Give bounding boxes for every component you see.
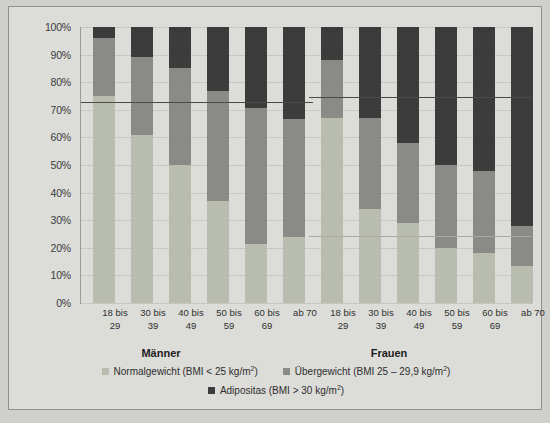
group-label-frauen: Frauen (309, 347, 469, 359)
bar-segment-uber (131, 57, 153, 134)
y-tick-label-30: 30% (51, 215, 71, 225)
y-axis-tick-labels: 0%10%20%30%40%50%60%70%80%90%100% (9, 7, 81, 337)
bar-segment-adip (435, 27, 457, 165)
gridline-0 (81, 303, 531, 304)
category-labels: 18 bis2930 bis3940 bis4950 bis5960 bis69… (81, 307, 531, 347)
bar-männer-5 (283, 27, 305, 303)
chart-legend: Normalgewicht (BMI < 25 kg/m2) Übergewic… (9, 365, 543, 404)
bar-segment-adip (93, 27, 115, 38)
bar-segment-uber (321, 60, 343, 118)
legend-item-adipositas: Adipositas (BMI > 30 kg/m2) (208, 384, 344, 396)
bar-frauen-5 (511, 27, 533, 303)
category-label-frauen-5: ab 70 (510, 307, 550, 320)
reference-line-männer (81, 102, 313, 103)
y-tick-label-100: 100% (45, 22, 71, 32)
bar-segment-uber (397, 143, 419, 223)
y-tick-label-70: 70% (51, 105, 71, 115)
legend-swatch-uebergewicht (283, 368, 290, 375)
y-tick-label-0: 0% (56, 298, 71, 308)
y-tick-label-60: 60% (51, 132, 71, 142)
bar-segment-adip (359, 27, 381, 118)
legend-swatch-adipositas (208, 387, 215, 394)
bar-segment-adip (283, 27, 305, 119)
plot-area (81, 27, 531, 303)
bar-segment-norm (511, 266, 533, 303)
bar-segment-uber (473, 171, 495, 254)
bar-männer-2 (169, 27, 191, 303)
bar-frauen-3 (435, 27, 457, 303)
y-tick-label-40: 40% (51, 188, 71, 198)
group-label-maenner: Männer (81, 347, 241, 359)
bar-segment-adip (511, 27, 533, 226)
y-tick-label-80: 80% (51, 77, 71, 87)
legend-swatch-normalgewicht (102, 368, 109, 375)
bar-segment-uber (207, 91, 229, 201)
bar-männer-0 (93, 27, 115, 303)
bar-männer-3 (207, 27, 229, 303)
bar-segment-norm (359, 209, 381, 303)
reference-line-secondary-frauen (309, 236, 531, 237)
legend-item-uebergewicht: Übergewicht (BMI 25 – 29,9 kg/m2) (283, 365, 451, 377)
legend-row-top: Normalgewicht (BMI < 25 kg/m2) Übergewic… (9, 365, 543, 377)
bar-segment-norm (131, 135, 153, 303)
bar-segment-norm (93, 96, 115, 303)
legend-label-uebergewicht: Übergewicht (BMI 25 – 29,9 kg/m2) (295, 365, 451, 377)
bar-segment-norm (283, 237, 305, 303)
bar-segment-norm (169, 165, 191, 303)
bar-frauen-0 (321, 27, 343, 303)
legend-row-bottom: Adipositas (BMI > 30 kg/m2) (9, 384, 543, 396)
y-tick-label-50: 50% (51, 160, 71, 170)
bar-segment-adip (397, 27, 419, 143)
bar-frauen-1 (359, 27, 381, 303)
bar-segment-uber (511, 226, 533, 266)
bar-segment-uber (359, 118, 381, 209)
y-tick-label-90: 90% (51, 50, 71, 60)
bar-segment-norm (473, 253, 495, 303)
bar-segment-uber (245, 108, 267, 243)
bar-segment-norm (321, 118, 343, 303)
bar-frauen-2 (397, 27, 419, 303)
bar-segment-uber (169, 68, 191, 165)
bar-segment-uber (93, 38, 115, 96)
bar-segment-adip (131, 27, 153, 57)
legend-item-normalgewicht: Normalgewicht (BMI < 25 kg/m2) (102, 365, 258, 377)
y-tick-label-20: 20% (51, 243, 71, 253)
reference-line-frauen (309, 97, 531, 98)
chart-frame: 0%10%20%30%40%50%60%70%80%90%100% 18 bis… (8, 6, 542, 410)
bar-segment-adip (321, 27, 343, 60)
bar-segment-norm (245, 244, 267, 303)
y-tick-label-10: 10% (51, 270, 71, 280)
bar-segment-norm (207, 201, 229, 303)
bar-segment-adip (245, 27, 267, 108)
bar-frauen-4 (473, 27, 495, 303)
legend-label-normalgewicht: Normalgewicht (BMI < 25 kg/m2) (114, 365, 258, 377)
bar-segment-adip (207, 27, 229, 90)
bar-segment-norm (435, 248, 457, 303)
bar-segment-uber (283, 119, 305, 236)
bar-segment-adip (473, 27, 495, 171)
bar-männer-4 (245, 27, 267, 303)
bar-segment-adip (169, 27, 191, 68)
legend-label-adipositas: Adipositas (BMI > 30 kg/m2) (220, 384, 344, 396)
bar-männer-1 (131, 27, 153, 303)
